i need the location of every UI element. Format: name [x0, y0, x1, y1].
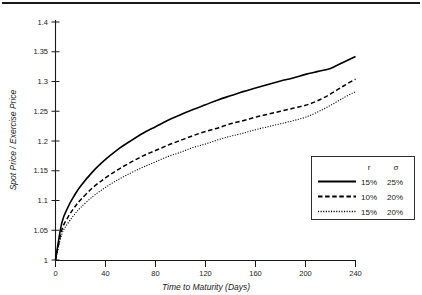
- y-tick-label-1.1: 1.1: [38, 196, 48, 205]
- y-tick-label-1.2: 1.2: [38, 137, 48, 146]
- legend-r-row-1: 10%: [361, 193, 377, 202]
- x-tick-label-200: 200: [299, 269, 312, 278]
- x-tick-label-0: 0: [53, 269, 57, 278]
- x-tick-label-240: 240: [349, 269, 362, 278]
- legend-sigma-row-1: 20%: [387, 193, 403, 202]
- y-tick-label-1: 1: [44, 256, 48, 265]
- figure-page: 1.4 1.35 1.3 1.25 1.2 1.15 1.1 1.05 1 0 …: [0, 0, 422, 295]
- y-tick-label-1.05: 1.05: [33, 226, 48, 235]
- x-tick-label-40: 40: [101, 269, 109, 278]
- y-tick-label-1.35: 1.35: [33, 47, 48, 56]
- series-line-dashed: [56, 79, 356, 260]
- series-line-dotted: [56, 92, 356, 260]
- x-tick-label-160: 160: [249, 269, 262, 278]
- legend-sigma-row-0: 25%: [387, 178, 403, 187]
- x-axis-title: Time to Maturity (Days): [162, 282, 250, 292]
- x-tick-label-80: 80: [151, 269, 159, 278]
- x-axis-ticks: [56, 261, 356, 268]
- y-tick-label-1.4: 1.4: [38, 18, 48, 27]
- legend-header-r: r: [368, 163, 371, 172]
- legend-r-row-2: 15%: [361, 208, 377, 217]
- y-tick-label-1.3: 1.3: [38, 77, 48, 86]
- line-chart: 1.4 1.35 1.3 1.25 1.2 1.15 1.1 1.05 1 0 …: [0, 0, 422, 295]
- series-line-solid: [56, 57, 356, 260]
- y-tick-label-1.15: 1.15: [33, 166, 48, 175]
- legend-r-row-0: 15%: [361, 178, 377, 187]
- legend-header-sigma: σ: [394, 163, 399, 172]
- y-axis-title: Spot Price / Exercise Price: [8, 89, 18, 190]
- y-tick-label-1.25: 1.25: [33, 107, 48, 116]
- legend-sigma-row-2: 20%: [387, 208, 403, 217]
- legend: r σ 15% 25% 10% 20% 15% 20%: [312, 157, 415, 220]
- x-tick-label-120: 120: [199, 269, 212, 278]
